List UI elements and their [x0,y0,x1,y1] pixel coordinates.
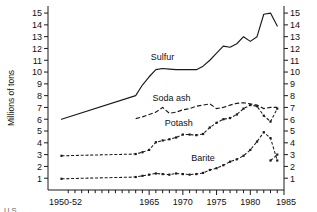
y-tick-label-left: 10 [32,67,42,77]
series-marker [242,155,244,157]
series-label-potash: Potash [165,118,193,128]
y-tick-label-right: 13 [290,32,300,42]
x-tick-label: 1970 [173,197,193,207]
series-marker [202,172,204,174]
y-tick-label-left: 5 [37,126,42,136]
series-marker [175,172,177,174]
x-tick-label: 1975 [207,197,227,207]
series-marker [195,173,197,175]
series-marker [256,141,258,143]
series-marker [168,138,170,140]
line-chart: 1122334455667788991010111112121313141415… [0,0,317,212]
series-marker [135,176,137,178]
series-marker [162,139,164,141]
y-tick-label-left: 6 [37,115,42,125]
y-tick-label-right: 5 [290,126,295,136]
series-marker [162,173,164,175]
y-tick-label-left: 15 [32,8,42,18]
series-marker [276,108,278,110]
series-marker [269,159,271,161]
y-tick-label-left: 7 [37,103,42,113]
series-marker [135,153,137,155]
series-marker [222,118,224,120]
y-tick-label-right: 9 [290,79,295,89]
series-marker [189,133,191,135]
series-label-soda-ash: Soda ash [152,93,190,103]
series-marker [209,169,211,171]
series-marker [155,141,157,143]
footnote-text: U.S. [4,206,19,212]
series-marker [263,115,265,117]
y-tick-label-right: 4 [290,138,295,148]
series-marker [236,113,238,115]
series-marker [229,161,231,163]
series-line-potash [61,105,277,156]
series-marker [222,164,224,166]
y-tick-label-right: 3 [290,150,295,160]
series-marker [263,131,265,133]
y-tick-label-right: 15 [290,8,300,18]
y-tick-label-left: 11 [33,56,42,66]
y-tick-label-left: 3 [37,150,42,160]
series-marker [229,117,231,119]
y-tick-label-left: 1 [37,174,42,184]
series-marker [276,154,278,156]
x-tick-label: 1950-52 [49,197,82,207]
y-tick-label-left: 8 [37,91,42,101]
y-tick-label-left: 2 [37,162,42,172]
y-tick-label-right: 14 [290,20,300,30]
series-marker [148,149,150,151]
series-label-sulfur: Sulfur [151,52,175,62]
series-marker [249,149,251,151]
series-marker [236,158,238,160]
series-marker [148,174,150,176]
series-marker [189,174,191,176]
y-tick-label-right: 1 [290,174,295,184]
series-marker [182,133,184,135]
series-marker [215,122,217,124]
y-tick-label-right: 7 [290,103,295,113]
y-tick-label-left: 4 [37,138,42,148]
series-marker [155,172,157,174]
series-marker [269,137,271,139]
x-tick-label: 1965 [139,197,159,207]
y-tick-label-left: 14 [32,20,42,30]
series-marker [141,175,143,177]
y-tick-label-right: 11 [290,56,299,66]
y-tick-label-right: 6 [290,115,295,125]
y-tick-label-right: 8 [290,91,295,101]
x-tick-label: 1980 [240,197,260,207]
x-tick-label: 1985 [276,197,296,207]
series-marker [195,134,197,136]
series-marker [249,104,251,106]
y-axis-title: Millions of tons [6,70,16,126]
series-marker [175,136,177,138]
series-label-barite: Barite [191,153,215,163]
series-marker [141,151,143,153]
y-tick-label-left: 9 [37,79,42,89]
y-tick-label-right: 12 [290,44,300,54]
series-marker [60,178,62,180]
y-tick-label-right: 2 [290,162,295,172]
series-line-soda-ash [136,103,278,119]
series-marker [242,108,244,110]
series-marker [256,105,258,107]
series-marker [276,159,278,161]
series-marker [182,173,184,175]
y-tick-label-left: 12 [32,44,42,54]
y-tick-label-right: 10 [290,67,300,77]
chart-container: 1122334455667788991010111112121313141415… [0,0,317,212]
y-tick-label-left: 13 [32,32,42,42]
series-marker [269,120,271,122]
series-marker [202,133,204,135]
series-marker [215,167,217,169]
series-marker [60,155,62,157]
series-marker [168,174,170,176]
series-marker [209,126,211,128]
